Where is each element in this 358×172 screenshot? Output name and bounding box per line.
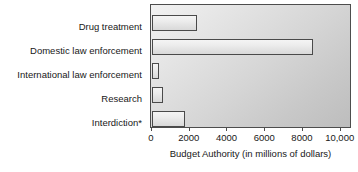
x-tick-mark xyxy=(226,127,227,131)
x-axis-line xyxy=(150,127,351,128)
bar-domestic-law-enforcement xyxy=(152,39,313,55)
category-label-research: Research xyxy=(0,94,142,104)
x-tick-label: 8000 xyxy=(282,132,322,143)
x-axis-tick-labels: 0200040006000800010,000 xyxy=(130,132,358,144)
plot-area xyxy=(150,4,351,128)
bar-interdiction xyxy=(152,111,185,127)
x-tick-label: 4000 xyxy=(206,132,246,143)
bar-drug-treatment xyxy=(152,15,197,31)
x-tick-label: 2000 xyxy=(169,132,209,143)
x-tick-label: 10,000 xyxy=(320,132,358,143)
y-axis-category-labels: Drug treatment Domestic law enforcement … xyxy=(0,8,146,128)
x-tick-label: 0 xyxy=(131,132,171,143)
horizontal-bar-chart: Drug treatment Domestic law enforcement … xyxy=(0,0,358,172)
x-axis-title: Budget Authority (in millions of dollars… xyxy=(150,148,351,160)
x-tick-label: 6000 xyxy=(244,132,284,143)
category-label-domestic-law-enforcement: Domestic law enforcement xyxy=(0,46,142,56)
category-label-international-law-enforcement: International law enforcement xyxy=(0,70,142,80)
category-label-interdiction: Interdiction* xyxy=(0,118,142,128)
x-tick-mark xyxy=(264,127,265,131)
category-label-drug-treatment: Drug treatment xyxy=(0,22,142,32)
bar-international-law-enforcement xyxy=(152,63,159,79)
x-tick-mark xyxy=(302,127,303,131)
x-tick-mark xyxy=(189,127,190,131)
bars-container xyxy=(152,5,350,127)
x-tick-mark xyxy=(151,127,152,131)
bar-research xyxy=(152,87,163,103)
x-tick-mark xyxy=(340,127,341,131)
